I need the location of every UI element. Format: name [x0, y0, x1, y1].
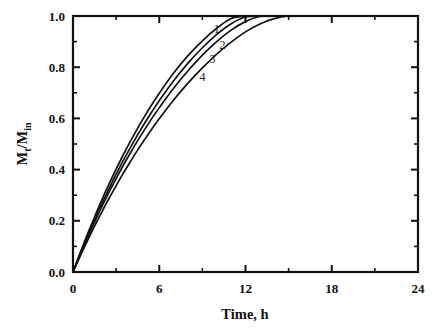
x-tick-label: 0 [70, 281, 77, 296]
curve-1 [73, 16, 418, 272]
curve-4 [73, 16, 418, 272]
y-axis-title: Mt/Min [14, 122, 33, 166]
curve-label-4: 4 [199, 70, 205, 84]
y-tick-labels: 0.00.20.40.60.81.0 [49, 9, 66, 280]
svg-text:Mt/Min: Mt/Min [14, 122, 33, 166]
y-axis-title-m2: M [14, 130, 30, 144]
curve-2 [73, 16, 418, 272]
axis-ticks [73, 16, 418, 272]
y-axis-title-sub2: in [22, 122, 33, 131]
plot-frame [73, 16, 418, 272]
y-tick-label: 0.8 [49, 60, 66, 75]
curve-3 [73, 16, 418, 272]
curve-label-3: 3 [209, 52, 215, 66]
y-tick-label: 0.4 [49, 162, 66, 177]
release-kinetics-chart: 06121824 0.00.20.40.60.81.0 1234 Time, h… [0, 0, 446, 333]
x-tick-labels: 06121824 [70, 281, 425, 296]
x-tick-label: 12 [239, 281, 252, 296]
x-tick-label: 18 [325, 281, 339, 296]
y-tick-label: 0.0 [49, 265, 65, 280]
data-curves [73, 16, 418, 272]
curve-label-2: 2 [220, 38, 226, 52]
y-tick-label: 0.6 [49, 111, 66, 126]
x-tick-label: 6 [156, 281, 163, 296]
y-tick-label: 1.0 [49, 9, 65, 24]
chart-figure: 06121824 0.00.20.40.60.81.0 1234 Time, h… [0, 0, 446, 333]
x-tick-label: 24 [412, 281, 426, 296]
curve-label-1: 1 [214, 22, 220, 36]
y-axis-title-m1: M [14, 152, 30, 166]
axes-border [73, 16, 418, 272]
y-tick-label: 0.2 [49, 213, 65, 228]
x-axis-title: Time, h [221, 306, 268, 322]
